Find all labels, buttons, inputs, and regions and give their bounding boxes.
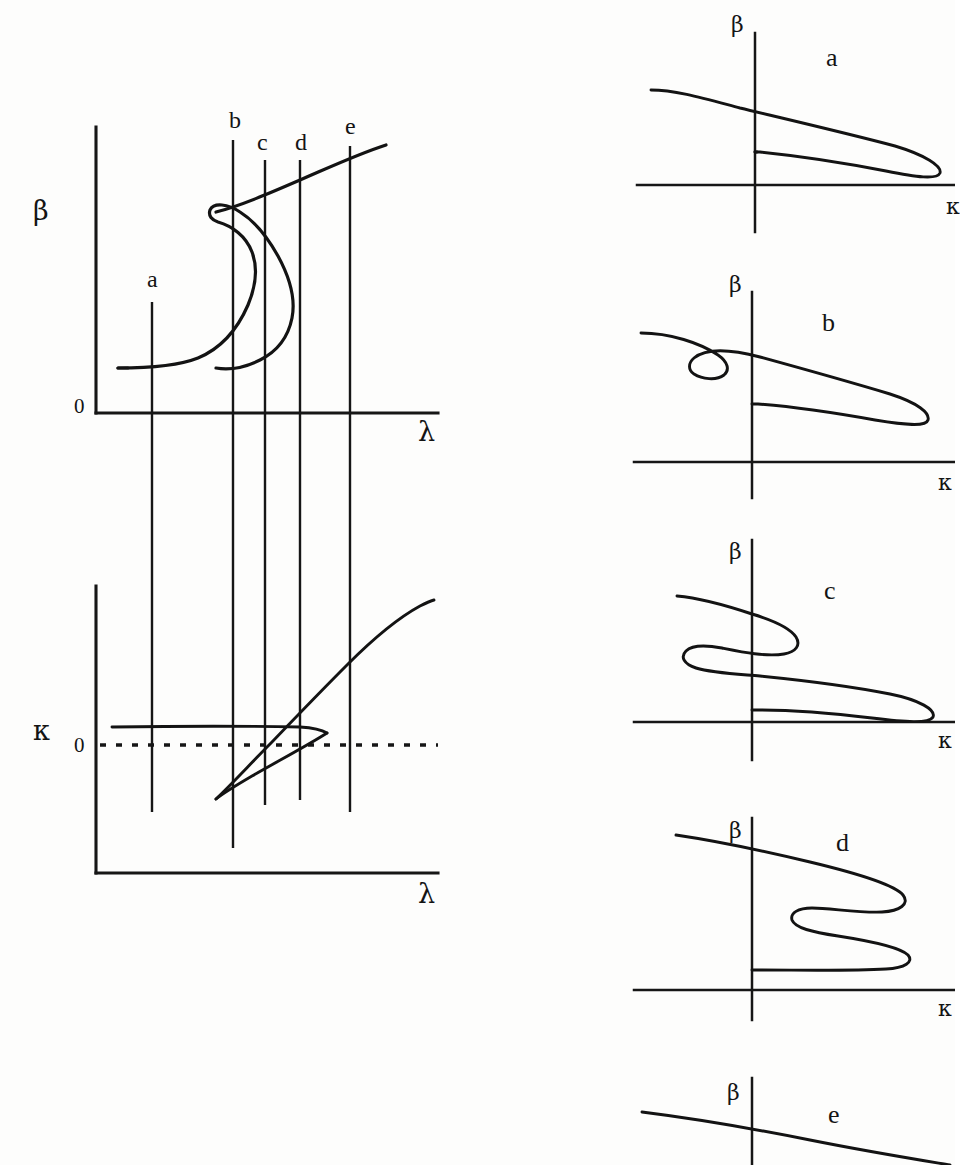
section-label-a: a [147,267,158,291]
beta-lambda-y-axis-label: β [33,197,49,224]
panel-a-curve [651,90,940,177]
panel-d-curve [676,835,910,970]
panel-e-label: e [828,1102,840,1128]
panel-section-a [637,33,955,232]
panel-c-label: c [824,578,836,604]
panel-b-label: b [822,310,835,336]
panel-b-y-axis-label: β [729,274,742,296]
panel-c-y-axis-label: β [729,541,742,563]
panel-section-d [634,818,955,1020]
panel-b-curve [641,333,928,425]
panel-section-c [634,540,955,760]
section-label-b: b [229,108,241,132]
panel-kappa-lambda [96,586,438,873]
panel-e-curve [642,1112,950,1165]
kappa-flat-branch [112,726,327,733]
beta-lambda-x-axis-label: λ [418,418,435,445]
panel-b-x-axis-label: κ [938,472,952,494]
panel-a-x-axis-label: κ [946,196,960,218]
panel-e-y-axis-label: β [727,1082,740,1104]
panel-a-y-axis-label: β [731,14,744,36]
kappa-rising-branch [216,600,434,799]
panel-c-curve [677,596,933,722]
section-label-e: e [345,114,356,138]
panel-d-y-axis-label: β [729,820,742,842]
panel-section-b [634,292,955,498]
panel-beta-lambda [96,127,438,848]
panel-c-x-axis-label: κ [938,730,952,752]
beta-lambda-origin-label: 0 [74,396,85,417]
panel-a-label: a [826,45,838,71]
panel-d-label: d [836,830,849,856]
kappa-lambda-y-axis-label: κ [33,717,50,744]
kappa-lambda-origin-label: 0 [74,735,85,756]
section-label-d: d [295,130,307,154]
panel-d-x-axis-label: κ [938,998,952,1020]
beta-lambda-s-curve [118,205,293,369]
kappa-lambda-x-axis-label: λ [418,880,435,907]
section-label-c: c [257,130,268,154]
panel-section-e [642,1078,950,1165]
